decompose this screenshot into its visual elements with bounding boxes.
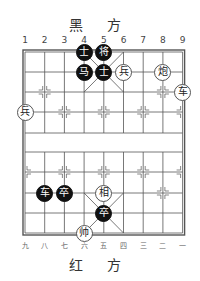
black-piece: 车: [36, 185, 53, 202]
bottom-file-label: 一: [176, 240, 190, 250]
bottom-file-label: 三: [136, 240, 150, 250]
bottom-file-label: 二: [156, 240, 170, 250]
bottom-file-label: 八: [38, 240, 52, 250]
red-piece: 帅: [76, 225, 93, 242]
black-piece: 卒: [95, 205, 112, 222]
bottom-file-label: 五: [97, 240, 111, 250]
black-piece: 士: [76, 44, 93, 61]
red-piece: 炮: [154, 64, 171, 81]
red-side-title: 红 方: [0, 254, 200, 274]
red-piece: 相: [95, 185, 112, 202]
bottom-file-label: 四: [117, 240, 131, 250]
bottom-file-label: 九: [18, 240, 32, 250]
red-piece: 兵: [115, 64, 132, 81]
black-piece: 卒: [56, 185, 73, 202]
black-piece: 马: [76, 64, 93, 81]
bottom-file-label: 七: [57, 240, 71, 250]
black-piece: 士: [95, 64, 112, 81]
black-piece: 将: [95, 44, 112, 61]
red-piece: 车: [174, 84, 191, 101]
red-piece: 兵: [17, 104, 34, 121]
bottom-file-label: 六: [77, 240, 91, 250]
xiangqi-board: [0, 0, 200, 281]
